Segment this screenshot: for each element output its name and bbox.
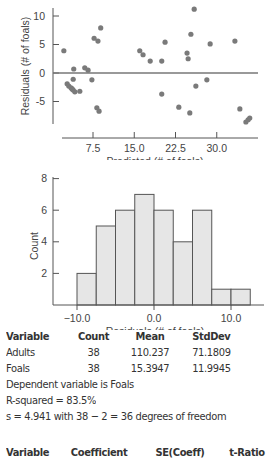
x-tick-label: −10.0 [64,312,91,324]
histogram-bar [116,210,135,305]
dependent-variable-text: Dependent variable is Foals [6,378,134,391]
data-point [162,40,167,45]
data-point [159,58,164,63]
histogram-bar [96,226,115,305]
y-tick-label: -5 [36,95,45,107]
data-point [188,32,193,37]
scatter-y-axis-label: Residuals (# of foals) [19,17,31,116]
y-tick-label: 5 [39,38,45,50]
data-point [204,77,209,82]
table-row: Foals 38 15.3947 11.9945 [6,361,240,377]
coef-header-t-ratio: t-Ratio [229,446,271,461]
data-point [85,68,90,73]
coef-header-se: SE(Coeff) [155,446,229,461]
histogram-bar [154,210,173,305]
header-stddev: StdDev [183,329,240,345]
data-point [193,84,198,89]
histogram-bar [212,289,231,305]
histogram-bar [193,210,212,305]
cell-variable: Foals [6,361,70,377]
data-point [159,91,164,96]
data-point [247,115,252,120]
r-squared-text: R-squared = 83.5% [6,394,96,407]
data-point [187,110,192,115]
cell-count: 38 [70,345,117,361]
data-point [96,109,101,114]
x-tick-label: 15.0 [124,142,145,154]
x-tick-label: 10.0 [221,312,242,324]
data-point [71,77,76,82]
y-tick-label: 2 [41,267,47,279]
x-tick-label: 22.5 [165,142,186,154]
header-variable: Variable [6,329,70,345]
coef-header-coefficient: Coefficient [71,446,156,461]
y-tick-label: 0 [39,67,45,79]
histogram-y-axis-label: Count [28,232,40,260]
scatter-points [61,7,252,125]
residual-histogram: 2468 −10.00.010.0 Count Residuals (# of … [0,160,271,330]
header-mean: Mean [117,329,182,345]
histogram-bar [77,273,96,305]
data-point [89,77,94,82]
histogram-x-axis: −10.00.010.0 [53,305,264,324]
data-point [70,86,75,91]
x-tick-label: 30.0 [207,142,228,154]
table-row: Adults 38 110.237 71.1809 [6,345,240,361]
data-point [148,58,153,63]
scatter-x-axis: 7.515.022.530.0 [62,132,258,154]
histogram-bar [135,194,154,305]
y-tick-label: 10 [33,10,45,22]
coefficient-table-header: Variable Coefficient SE(Coeff) t-Ratio P [6,446,271,461]
cell-count: 38 [70,361,117,377]
cell-stddev: 71.1809 [183,345,240,361]
x-tick-label: 0.0 [147,312,162,324]
data-point [77,89,82,94]
data-point [184,50,189,55]
histogram-bar [173,242,192,305]
data-point [98,25,103,30]
cell-variable: Adults [6,345,70,361]
cell-stddev: 11.9945 [183,361,240,377]
x-tick-label: 7.5 [86,142,101,154]
s-degrees-of-freedom-text: s = 4.941 with 38 − 2 = 36 degrees of fr… [6,410,226,423]
scatter-y-axis: -50510 [33,8,59,124]
y-tick-label: 6 [41,204,47,216]
data-point [95,38,100,43]
data-point [232,38,237,43]
histogram-y-axis: 2468 [41,172,59,305]
data-point [176,105,181,110]
data-point [237,106,242,111]
data-point [61,48,66,53]
data-point [140,52,145,57]
data-point [186,56,191,61]
coef-header-variable: Variable [6,446,71,461]
summary-table-header: Variable Count Mean StdDev [6,329,240,345]
histogram-bars [77,194,250,305]
cell-mean: 15.3947 [117,361,182,377]
y-tick-label: 8 [41,172,47,184]
y-tick-label: 4 [41,235,47,247]
residual-scatter-plot: -50510 7.515.022.530.0 Residuals (# of f… [0,0,271,160]
data-point [137,48,142,53]
data-point [208,41,213,46]
header-count: Count [70,329,117,345]
summary-statistics-table: Variable Count Mean StdDev Adults 38 110… [6,329,266,377]
data-point [192,7,197,12]
data-point [71,66,76,71]
cell-mean: 110.237 [117,345,182,361]
histogram-bar [231,289,250,305]
